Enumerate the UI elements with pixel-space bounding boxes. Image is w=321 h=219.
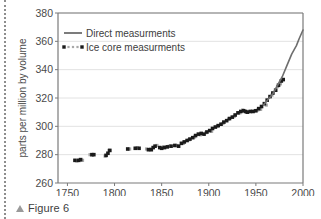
ice-core-dark-markers bbox=[73, 78, 285, 162]
svg-text:380: 380 bbox=[35, 7, 53, 19]
svg-text:260: 260 bbox=[35, 177, 53, 189]
svg-text:1800: 1800 bbox=[103, 187, 127, 196]
svg-text:280: 280 bbox=[35, 148, 53, 160]
svg-text:1900: 1900 bbox=[197, 187, 221, 196]
chart-legend: Direct measurmentsIce core measurments bbox=[62, 28, 185, 53]
svg-text:1950: 1950 bbox=[244, 187, 268, 196]
y-axis-ticks-group: 260280300320340360380 bbox=[35, 7, 58, 189]
ice-core-light-markers bbox=[75, 82, 282, 162]
svg-text:320: 320 bbox=[35, 92, 53, 104]
svg-text:2000: 2000 bbox=[291, 187, 315, 196]
figure-caption: Figure 6 bbox=[16, 200, 69, 216]
triangle-up-icon bbox=[16, 205, 24, 212]
svg-text:300: 300 bbox=[35, 120, 53, 132]
figure-caption-text: Figure 6 bbox=[28, 202, 69, 214]
co2-concentration-chart: 260280300320340360380 175018001850190019… bbox=[0, 0, 321, 196]
svg-text:parts per million by volume: parts per million by volume bbox=[17, 38, 28, 157]
chart-figure: 260280300320340360380 175018001850190019… bbox=[0, 0, 321, 196]
figure-container: 260280300320340360380 175018001850190019… bbox=[0, 0, 321, 219]
y-axis-label: parts per million by volume bbox=[17, 38, 28, 157]
svg-text:360: 360 bbox=[35, 35, 53, 47]
svg-text:Ice core measurments: Ice core measurments bbox=[86, 42, 185, 53]
svg-text:1750: 1750 bbox=[56, 187, 80, 196]
svg-text:Direct measurments: Direct measurments bbox=[86, 28, 175, 39]
svg-text:340: 340 bbox=[35, 63, 53, 75]
x-axis-ticks-group: 175018001850190019502000 bbox=[56, 183, 315, 196]
svg-text:1850: 1850 bbox=[150, 187, 174, 196]
